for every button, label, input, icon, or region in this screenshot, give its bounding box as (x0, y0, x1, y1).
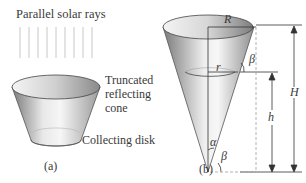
r-label: r (216, 61, 221, 74)
H-label: H (290, 86, 299, 99)
beta-top-label: β (249, 53, 255, 66)
diagram-canvas (0, 0, 306, 183)
cone-shape (163, 15, 254, 172)
cone-label-line3: cone (105, 102, 128, 115)
caption-a: (a) (44, 160, 57, 173)
rays-label: Parallel solar rays (16, 8, 106, 21)
disk-label: Collecting disk (82, 134, 155, 147)
h-label: h (268, 111, 274, 124)
H-dimension-arrow (291, 26, 297, 172)
alpha-label: α (210, 136, 216, 149)
R-label: R (224, 13, 231, 26)
caption-b: (b) (199, 163, 213, 176)
beta-bottom-label: β (221, 150, 227, 163)
cone-label-line1: Truncated (105, 74, 153, 87)
cone-label-line2: reflecting (105, 88, 151, 101)
solar-rays-icon (20, 27, 92, 58)
